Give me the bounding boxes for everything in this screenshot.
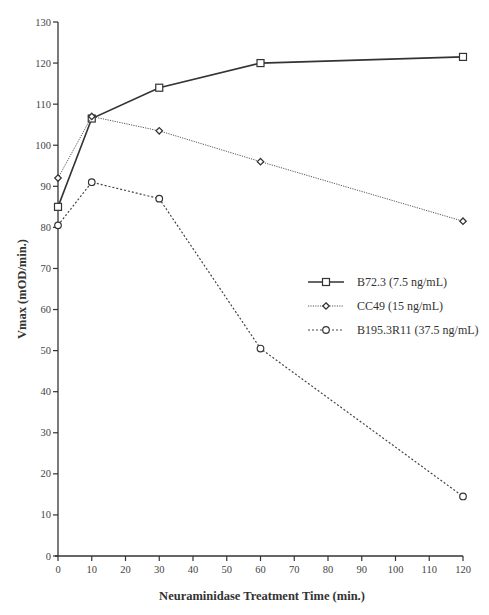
x-tick-label: 90 — [357, 564, 368, 575]
legend: B72.3 (7.5 ng/mL)CC49 (15 ng/mL)B195.3R1… — [308, 275, 479, 337]
y-axis-title: Vmax (mOD/min.) — [15, 239, 29, 339]
x-tick-label: 70 — [289, 564, 300, 575]
x-tick-label: 100 — [388, 564, 404, 575]
circle-marker — [55, 222, 62, 229]
x-tick-label: 120 — [455, 564, 471, 575]
legend-label: B195.3R11 (37.5 ng/mL) — [357, 323, 479, 337]
legend-square-icon — [323, 279, 330, 286]
axes: 0102030405060708090100110120130010203040… — [35, 17, 471, 576]
y-tick-label: 20 — [41, 468, 52, 479]
y-tick-label: 100 — [35, 140, 51, 151]
x-tick-label: 30 — [154, 564, 165, 575]
series-1 — [55, 113, 466, 224]
x-axis-title: Neuraminidase Treatment Time (min.) — [159, 589, 365, 603]
series-2 — [55, 179, 467, 500]
series-line — [58, 182, 463, 496]
y-tick-label: 40 — [41, 386, 52, 397]
legend-label: B72.3 (7.5 ng/mL) — [357, 275, 447, 289]
legend-diamond-icon — [323, 303, 329, 309]
circle-marker — [88, 179, 95, 186]
legend-label: CC49 (15 ng/mL) — [357, 299, 443, 313]
y-tick-label: 130 — [35, 17, 51, 28]
line-chart: 0102030405060708090100110120130010203040… — [0, 0, 489, 615]
x-tick-label: 80 — [323, 564, 334, 575]
y-tick-label: 0 — [46, 551, 51, 562]
series-0 — [55, 53, 467, 210]
y-tick-label: 60 — [41, 304, 52, 315]
y-tick-label: 90 — [41, 181, 52, 192]
y-tick-label: 10 — [41, 509, 52, 520]
circle-marker — [156, 195, 163, 202]
diamond-marker — [55, 175, 61, 181]
circle-marker — [460, 493, 467, 500]
square-marker — [156, 84, 163, 91]
y-tick-label: 110 — [36, 99, 51, 110]
y-tick-label: 80 — [41, 222, 52, 233]
x-tick-label: 50 — [222, 564, 233, 575]
x-tick-label: 40 — [188, 564, 199, 575]
x-tick-label: 10 — [87, 564, 98, 575]
x-tick-label: 60 — [255, 564, 266, 575]
y-tick-label: 120 — [35, 58, 51, 69]
square-marker — [460, 53, 467, 60]
series-line — [58, 116, 463, 221]
y-tick-label: 50 — [41, 345, 52, 356]
circle-marker — [257, 345, 264, 352]
diamond-marker — [156, 128, 162, 134]
square-marker — [55, 203, 62, 210]
x-tick-label: 0 — [55, 564, 60, 575]
x-tick-label: 20 — [120, 564, 131, 575]
x-tick-label: 110 — [422, 564, 437, 575]
y-tick-label: 70 — [41, 263, 52, 274]
series-line — [58, 57, 463, 207]
diamond-marker — [257, 158, 263, 164]
legend-circle-icon — [323, 327, 330, 334]
diamond-marker — [460, 218, 466, 224]
square-marker — [257, 60, 264, 67]
y-tick-label: 30 — [41, 427, 52, 438]
